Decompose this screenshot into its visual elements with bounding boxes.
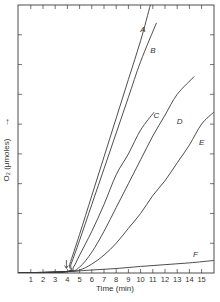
data-curves [19, 5, 214, 273]
addition-arrow-icon [65, 260, 69, 269]
y-axis-ticks [18, 35, 214, 243]
x-tick-label: 7 [102, 275, 106, 284]
curve-label-d: D [177, 117, 183, 126]
x-tick-label: 1 [29, 275, 33, 284]
x-tick-label: 10 [136, 275, 144, 284]
x-tick-label: 14 [185, 275, 193, 284]
y-axis-label: O₂ (μmoles) [2, 138, 11, 181]
curve-label-f: F [193, 250, 199, 259]
plot-border [18, 5, 214, 273]
y-axis-arrow-icon: → [1, 118, 11, 127]
oxygen-evolution-chart: 123456789101112131415 ABCDEF Time (min) … [0, 0, 220, 302]
curve-label-e: E [199, 138, 205, 147]
chart-canvas: 123456789101112131415 ABCDEF Time (min) … [0, 0, 220, 302]
x-tick-label: 4 [65, 275, 69, 284]
x-tick-label: 2 [41, 275, 45, 284]
curve-label-a: A [139, 25, 145, 34]
plot-frame [18, 5, 214, 273]
x-tick-label: 15 [197, 275, 205, 284]
curve-b [19, 23, 157, 273]
curve-d [19, 76, 195, 273]
x-tick-label: 6 [90, 275, 94, 284]
curve-label-b: B [150, 46, 156, 55]
curve-c [19, 112, 154, 273]
curve-e [19, 112, 214, 273]
curve-labels: ABCDEF [139, 25, 205, 259]
x-tick-label: 12 [161, 275, 169, 284]
x-axis-label: Time (min) [96, 284, 134, 293]
curve-a [19, 5, 151, 273]
x-tick-label: 3 [53, 275, 57, 284]
x-tick-label: 8 [114, 275, 118, 284]
x-tick-label: 9 [126, 275, 130, 284]
curve-label-c: C [154, 111, 160, 120]
x-tick-label: 11 [149, 275, 157, 284]
x-tick-label: 13 [173, 275, 181, 284]
x-tick-label: 5 [78, 275, 82, 284]
